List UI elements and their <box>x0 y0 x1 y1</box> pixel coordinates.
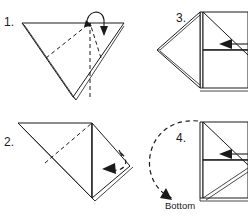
step-1-figure <box>0 0 124 110</box>
step-panel-3: 3. <box>124 0 248 110</box>
origami-instruction-diagram: 1. 2. <box>0 0 248 219</box>
step-panel-2: 2. <box>0 110 124 219</box>
step-panel-4: 4. To Bottom <box>124 110 248 219</box>
kite-right-lower-face <box>203 50 248 88</box>
rotate-arrow-curve <box>149 121 198 198</box>
fold-arrow-curve <box>87 12 104 24</box>
bottom-point-thickness <box>92 198 95 201</box>
step-3-figure <box>124 0 248 110</box>
step-panel-1: 1. <box>0 0 124 110</box>
rotate-arrow-head-icon <box>160 188 172 200</box>
step-4-figure <box>124 110 248 219</box>
kite-right-lower-face <box>203 160 248 198</box>
kite-left-face <box>157 12 200 88</box>
step-2-figure <box>0 110 124 219</box>
triangle-front-face <box>22 23 124 97</box>
